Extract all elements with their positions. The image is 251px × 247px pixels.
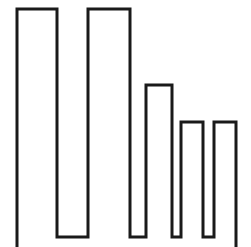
bar-chart-icon [0, 0, 251, 247]
bar-chart-figure: Bar chart icon drawn as a single black o… [0, 0, 251, 247]
